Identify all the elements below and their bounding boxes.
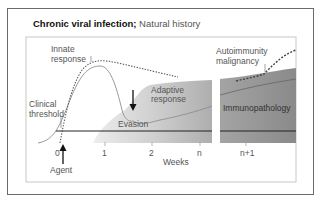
- innate-label-line1: Innate: [51, 44, 75, 54]
- x-tick-n-plus-1: n+1: [240, 148, 255, 158]
- autoimmunity-label-line2: malignancy: [216, 56, 260, 66]
- x-axis-label: Weeks: [163, 157, 189, 167]
- x-tick-1: 1: [102, 148, 107, 158]
- autoimmunity-label-line1: Autoimmunity: [216, 46, 268, 56]
- adaptive-label-line2: response: [151, 94, 186, 104]
- innate-label-line2: response: [51, 54, 86, 64]
- x-tick-2: 2: [149, 148, 154, 158]
- immunopathology-label: Immunopathology: [223, 103, 291, 113]
- x-tick-0: 0: [55, 148, 60, 158]
- evasion-label: Evasion: [118, 119, 149, 129]
- natural-history-diagram: 0 1 2 n n+1 Weeks Innate response Autoim…: [0, 0, 323, 200]
- agent-label: Agent: [50, 165, 73, 175]
- x-tick-n: n: [197, 148, 202, 158]
- clinical-label-line1: Clinical: [29, 99, 57, 109]
- clinical-label-line2: threshold: [29, 109, 64, 119]
